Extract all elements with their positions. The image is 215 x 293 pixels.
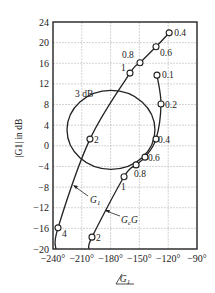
x-axis-label: G1 xyxy=(116,274,134,286)
point-freq-label: 0.6 xyxy=(148,153,160,163)
y-axis-label: |G1| in dB xyxy=(14,119,24,158)
point-freq-label: 0.4 xyxy=(158,135,170,145)
y-tick-label: −16 xyxy=(33,223,49,234)
point-freq-label: 4 xyxy=(62,229,67,239)
y-axis-ticks: −20−16−12−8−404812162024 xyxy=(33,17,49,255)
point-freq-label: 2 xyxy=(96,233,101,243)
point-freq-label: 1 xyxy=(121,182,126,192)
y-tick-label: −8 xyxy=(38,182,49,193)
y-tick-label: 4 xyxy=(44,120,49,131)
curve-g1 xyxy=(55,33,169,249)
y-tick-label: 12 xyxy=(39,78,49,89)
y-tick-label: 16 xyxy=(39,58,49,69)
x-tick-label: −180° xyxy=(98,253,123,264)
point-freq-label: 1 xyxy=(121,63,126,73)
point-freq-label: 0.1 xyxy=(162,70,174,80)
data-point-g1 xyxy=(127,70,133,76)
data-point-g1 xyxy=(153,44,159,50)
g1-label: G1 xyxy=(90,195,100,207)
point-freq-label: 0.4 xyxy=(174,28,186,38)
curves xyxy=(55,33,169,249)
y-tick-label: 24 xyxy=(39,17,49,28)
x-tick-label: −210° xyxy=(69,253,94,264)
series-label-gcg: GcG xyxy=(105,210,138,227)
point-freq-label: 0.8 xyxy=(134,169,146,179)
point-freq-label: 0.6 xyxy=(160,48,172,58)
data-point-g1 xyxy=(137,60,143,66)
data-point-g1 xyxy=(166,30,172,36)
contour-label: 3 dB xyxy=(75,89,93,99)
data-point-g1 xyxy=(55,225,61,231)
x-tick-label: −150° xyxy=(127,253,152,264)
data-point-gcg xyxy=(89,234,95,240)
y-tick-label: 0 xyxy=(44,140,49,151)
x-tick-label: −120° xyxy=(156,253,181,264)
data-points: 0.40.60.81240.10.20.40.60.812 xyxy=(55,28,186,243)
data-point-gcg xyxy=(158,101,164,107)
x-tick-label: −90° xyxy=(187,253,207,264)
data-point-gcg xyxy=(121,174,127,180)
y-tick-label: 8 xyxy=(44,99,49,110)
nichols-chart: 0.40.60.81240.10.20.40.60.812 −240°−210°… xyxy=(0,0,215,293)
point-freq-label: 0.8 xyxy=(122,50,134,60)
y-tick-label: −20 xyxy=(33,244,49,255)
y-tick-label: 20 xyxy=(39,37,49,48)
y-tick-label: −12 xyxy=(33,202,49,213)
x-tick-label: −240° xyxy=(41,253,66,264)
gcg-label: GcG xyxy=(121,215,138,227)
point-freq-label: 2 xyxy=(94,135,99,145)
data-point-gcg xyxy=(133,162,139,168)
data-point-g1 xyxy=(87,136,93,142)
y-tick-label: −4 xyxy=(38,161,49,172)
series-label-g1: G1 xyxy=(73,185,100,207)
x-axis-ticks: −240°−210°−180°−150°−120°−90° xyxy=(41,253,207,264)
point-freq-label: 0.2 xyxy=(165,100,177,110)
data-point-gcg xyxy=(154,72,160,78)
